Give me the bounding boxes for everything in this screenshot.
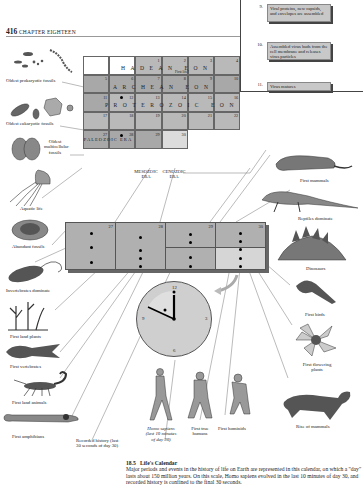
calendar-blank xyxy=(83,56,109,75)
curved-arrow-icon xyxy=(212,273,240,297)
sabertooth-cat-icon xyxy=(280,388,356,422)
page-number: 416 xyxy=(6,27,17,36)
eukaryote-illustration-icon xyxy=(6,92,78,124)
caption-body: Major periods and events in the history … xyxy=(126,466,362,485)
label-first-birds: First birds xyxy=(305,312,325,317)
label-oldest-multicellular: Oldest multicellular fossils xyxy=(44,139,66,155)
event-dot xyxy=(120,134,123,137)
fossil-shell-icon xyxy=(10,218,50,242)
first-life-note: First life? xyxy=(175,70,189,74)
calendar-blank xyxy=(188,130,214,149)
label-first-land-animals: First land animals xyxy=(12,400,46,405)
stegosaurus-icon xyxy=(272,226,348,266)
clock-hands-icon xyxy=(136,281,212,357)
calendar-day: 18 xyxy=(109,112,135,131)
event-dot xyxy=(139,236,142,239)
label-first-hominids: First hominids xyxy=(218,426,246,431)
event-dot xyxy=(189,233,192,236)
divider xyxy=(166,247,216,248)
virus-steps-panel: 9. Viral proteins, new capsids, and enve… xyxy=(240,0,363,92)
bird-archaeopteryx-icon xyxy=(292,276,342,306)
event-dot xyxy=(239,265,242,268)
event-dot xyxy=(139,257,142,260)
multicellular-fossil-icon xyxy=(10,136,44,162)
mesozoic-era-label: MESOZOIC ERA xyxy=(131,169,161,179)
label-first-mammals: First mammals xyxy=(300,178,329,183)
proterozoic-eon-label: PROTEROZOIC EON xyxy=(105,102,239,108)
expanded-calendar-days-27-30: 27 28 29 30 xyxy=(65,222,266,270)
event-dot xyxy=(139,249,142,252)
label-first-land-plants: First land plants xyxy=(10,334,41,339)
event-dot xyxy=(120,96,123,99)
step-box: Virus matures xyxy=(267,82,331,91)
archean-eon-label: ARCHEAN EON xyxy=(113,84,213,90)
label-first-flowering-plants: First flowering plants xyxy=(300,362,334,373)
prokaryote-illustration-icon xyxy=(8,44,76,76)
calendar-day: 10 xyxy=(214,75,240,94)
amphibian-icon xyxy=(2,410,80,426)
chapter-title: CHAPTER EIGHTEEN xyxy=(19,29,76,35)
label-first-true-humans: First true humans xyxy=(188,426,212,437)
flower-icon xyxy=(294,322,338,358)
event-dot xyxy=(239,248,242,251)
hadean-eon-label: HADEAN EON xyxy=(121,65,213,71)
event-dot xyxy=(189,256,192,259)
label-reptiles-dominate: Reptiles dominate xyxy=(298,216,333,221)
label-aquatic-life: Aquatic life xyxy=(20,206,43,211)
calendar-day: 4 xyxy=(214,56,240,75)
event-dot xyxy=(139,265,142,268)
jellyfish-icon xyxy=(6,166,56,208)
day-28-cell: 28 xyxy=(116,223,166,269)
figure-caption: 18.5 Life's Calendar Major periods and e… xyxy=(126,460,362,486)
step-box: Viral proteins, new capsids, and envelop… xyxy=(267,4,331,22)
human-evolution-icon xyxy=(142,368,262,424)
calendar-day: 20 xyxy=(162,112,188,131)
label-oldest-prokaryotic: Oldest prokaryotic fossils xyxy=(6,78,55,83)
calendar-day: 21 xyxy=(188,112,214,131)
day-30-clock: 12 3 6 9 xyxy=(136,281,212,357)
land-plant-icon xyxy=(6,298,50,332)
label-homo-sapiens: Homo sapiens (last 10 minutes of day 30) xyxy=(144,426,178,442)
event-dot xyxy=(90,261,93,264)
calendar-day: 5 xyxy=(83,75,109,94)
label-rise-of-mammals: Rise of mammals xyxy=(296,424,330,429)
mammal-icon xyxy=(268,150,358,178)
event-dot xyxy=(189,265,192,268)
label-first-vertebrates: First vertebrates xyxy=(10,364,41,369)
label-invertebrates: Invertebrates dominate xyxy=(6,288,50,293)
trilobite-icon xyxy=(4,258,66,286)
calendar-day: 17 xyxy=(83,112,109,131)
paleozoic-era-label: PALEOZOIC ERA xyxy=(81,137,135,142)
calendar-day: 19 xyxy=(135,112,161,131)
event-dot xyxy=(90,246,93,249)
reptile-icon xyxy=(258,186,362,214)
day-29-cell: 29 xyxy=(166,223,216,269)
label-abundant-fossils: Abundant fossils xyxy=(12,244,44,249)
event-dot xyxy=(90,232,93,235)
step-box: Assembled virus buds from the cell membr… xyxy=(267,42,331,60)
event-dot xyxy=(189,241,192,244)
scorpion-icon xyxy=(8,370,70,398)
fish-vertebrate-icon xyxy=(2,340,64,362)
event-dot xyxy=(239,257,242,260)
calendar-day: 30 xyxy=(162,130,188,149)
calendar-day: 29 xyxy=(135,130,161,149)
label-oldest-eukaryotic: Oldest eukaryotic fossils xyxy=(6,121,53,126)
label-recorded-history: Recorded history (last 30 seconds of day… xyxy=(76,438,120,449)
calendar-day: 22 xyxy=(214,112,240,131)
event-dot xyxy=(239,240,242,243)
life-calendar-month: 1 2 3 4 5 6 7 8 9 10 11 12 13 14 15 16 1… xyxy=(83,56,240,168)
event-dot xyxy=(239,232,242,235)
label-first-amphibians: First amphibians xyxy=(12,434,44,439)
label-dinosaurs: Dinosaurs xyxy=(306,266,325,271)
cenozoic-era-label: CENOZOIC ERA xyxy=(159,169,189,179)
page-header: 416 CHAPTER EIGHTEEN xyxy=(6,27,246,37)
